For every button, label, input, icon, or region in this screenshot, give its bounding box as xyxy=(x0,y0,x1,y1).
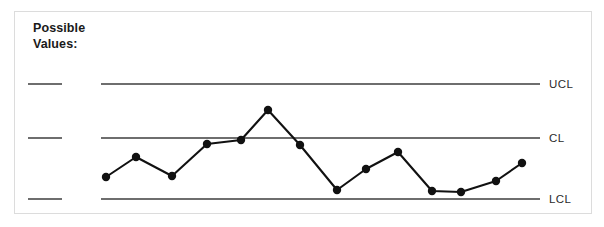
chart-card xyxy=(14,11,592,214)
ucl-label: UCL xyxy=(549,78,573,90)
page-title: Possible Values: xyxy=(33,20,85,52)
cl-label: CL xyxy=(549,132,565,144)
lcl-label: LCL xyxy=(549,193,571,205)
control-chart-figure: Possible Values: xyxy=(0,0,604,227)
